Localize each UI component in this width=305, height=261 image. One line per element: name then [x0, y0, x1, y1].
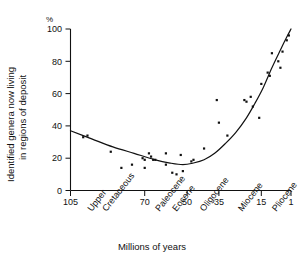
data-point — [82, 136, 84, 138]
data-point — [279, 67, 281, 69]
data-point — [171, 172, 173, 174]
fitted-trend-curve — [71, 29, 292, 165]
data-point — [243, 99, 245, 101]
data-point — [216, 99, 218, 101]
data-point — [148, 152, 150, 154]
data-point — [144, 159, 146, 161]
y-tick-label: 40 — [52, 121, 62, 131]
data-point — [144, 167, 146, 169]
y-tick-label: 0 — [57, 186, 62, 196]
epoch-label: Pliocene — [270, 180, 299, 213]
data-point — [154, 159, 156, 161]
data-point — [245, 101, 247, 103]
x-tick-label: 70 — [140, 197, 150, 207]
x-tick-label: 105 — [63, 197, 78, 207]
data-point — [182, 170, 184, 172]
data-point — [120, 167, 122, 169]
percent-symbol: % — [46, 15, 53, 24]
data-point — [271, 52, 273, 54]
data-point — [286, 39, 288, 41]
y-tick-label: 20 — [52, 153, 62, 163]
data-point — [190, 160, 192, 162]
data-point — [180, 154, 182, 156]
data-point — [203, 147, 205, 149]
data-point — [141, 157, 143, 159]
epoch-labels: UpperCretaceousPaleoceneEoceneOligoceneM… — [85, 170, 299, 213]
y-axis-title: Identified genera now living in regions … — [5, 67, 28, 182]
data-point — [258, 117, 260, 119]
y-tick-label: 80 — [52, 57, 62, 67]
data-points — [82, 34, 290, 175]
data-point — [110, 151, 112, 153]
data-point — [277, 60, 279, 62]
data-point — [260, 83, 262, 85]
scatter-chart: % Identified genera now living in region… — [0, 0, 305, 261]
y-tick-label: 60 — [52, 89, 62, 99]
y-tick-label: 100 — [47, 24, 62, 34]
data-point — [226, 134, 228, 136]
y-axis-ticks: 020406080100 — [47, 24, 71, 196]
y-axis-title-line2: in regions of deposit — [17, 75, 28, 160]
data-point — [152, 159, 154, 161]
data-point — [281, 51, 283, 53]
data-point — [165, 164, 167, 166]
data-point — [250, 96, 252, 98]
data-point — [267, 72, 269, 74]
data-point — [218, 122, 220, 124]
x-axis-title: Millions of years — [118, 241, 186, 252]
data-point — [131, 164, 133, 166]
chart-container: % Identified genera now living in region… — [0, 0, 305, 261]
y-axis-title-line1: Identified genera now living — [5, 67, 16, 182]
data-point — [165, 152, 167, 154]
data-point — [252, 105, 254, 107]
x-tick-label: 15 — [256, 197, 266, 207]
data-point — [288, 34, 290, 36]
epoch-label: Oligocene — [198, 175, 231, 213]
data-point — [269, 75, 271, 77]
y-axis-unit-label: % — [46, 15, 53, 24]
data-point — [192, 159, 194, 161]
data-point — [150, 155, 152, 157]
data-point — [86, 134, 88, 136]
